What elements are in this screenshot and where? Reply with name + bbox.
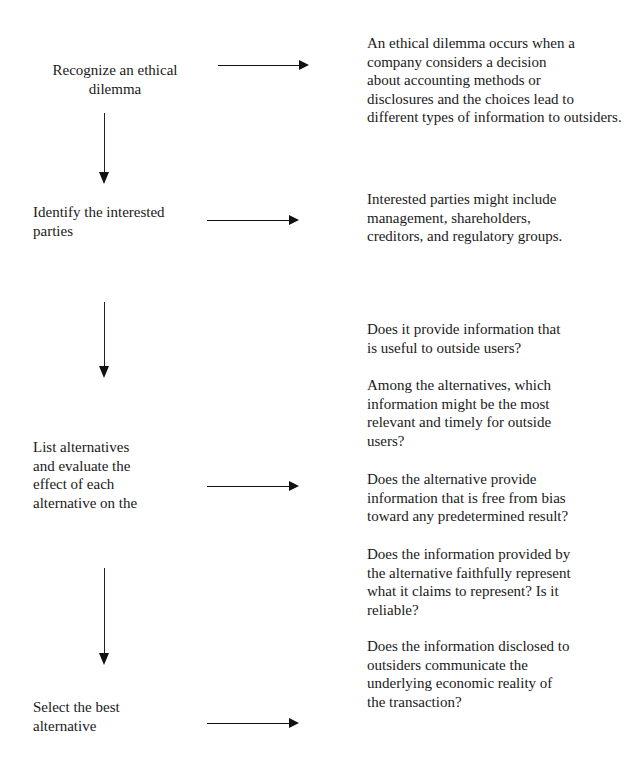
step-recognize: Recognize an ethical dilemma (50, 61, 180, 98)
arrow-right-2-icon (207, 220, 290, 221)
step-select-best: Select the best alternative (33, 698, 120, 735)
explanation-recognize: An ethical dilemma occurs when a company… (367, 34, 622, 127)
question-relevant: Among the alternatives, which informatio… (367, 376, 551, 450)
question-economic-reality: Does the information disclosed to outsid… (367, 637, 569, 711)
arrow-down-1-icon (104, 113, 105, 173)
step-identify: Identify the interested parties (33, 203, 165, 240)
arrow-right-3-icon (207, 486, 290, 487)
arrow-down-2-icon (104, 302, 105, 367)
arrow-down-3-icon (104, 568, 105, 654)
explanation-identify: Interested parties might include managem… (367, 190, 562, 246)
question-bias: Does the alternative provide information… (367, 470, 568, 526)
question-useful: Does it provide information that is usef… (367, 320, 560, 357)
step-list-alternatives: List alternatives and evaluate the effec… (33, 438, 137, 512)
arrow-right-4-icon (207, 723, 290, 724)
question-faithful: Does the information provided by the alt… (367, 545, 571, 619)
arrow-right-1-icon (218, 65, 300, 66)
